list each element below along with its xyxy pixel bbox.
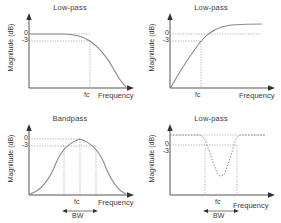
response-curve [30, 139, 126, 194]
fc-label: fc [215, 198, 220, 205]
y-axis-arrow [167, 124, 172, 131]
bw-arrow-left [203, 209, 208, 213]
ytick-minus3: -3 [14, 36, 28, 43]
bw-label: BW [213, 212, 224, 219]
ytick-minus3: -3 [155, 147, 169, 154]
fc-label: fc [74, 198, 79, 205]
y-axis-arrow [26, 13, 31, 20]
bw-arrow-left [62, 209, 67, 213]
y-axis-arrow [167, 13, 172, 20]
response-curve [170, 135, 265, 176]
fc-label: fc [195, 91, 200, 98]
ytick-0: 0 [157, 29, 169, 36]
x-axis-arrow [268, 192, 275, 197]
filter-response-figure: Low-pass Magnitude (dB) 0 -3 fc Frequenc… [0, 0, 281, 223]
panel-bottom-left: Bandpass Magnitude (dB) 0 -3 fc Frequenc… [0, 111, 140, 222]
bw-label: BW [72, 212, 83, 219]
ytick-0: 0 [16, 134, 28, 141]
panel-top-left: Low-pass Magnitude (dB) 0 -3 fc Frequenc… [0, 0, 140, 111]
fc-label: fc [84, 91, 89, 98]
x-axis-arrow [127, 192, 134, 197]
x-axis-label: Frequency [233, 201, 268, 210]
x-axis-label: Frequency [239, 91, 274, 100]
ytick-minus3: -3 [14, 141, 28, 148]
x-axis-arrow [127, 85, 134, 90]
x-axis-arrow [268, 85, 275, 90]
x-axis-label: Frequency [98, 198, 133, 207]
ytick-minus3: -3 [155, 36, 169, 43]
response-curve [29, 34, 126, 87]
bw-arrow-right [93, 209, 98, 213]
ytick-0: 0 [157, 140, 169, 147]
panel-bottom-right: Low-pass Magnitude (dB) 0 -3 fc Frequenc… [141, 111, 281, 222]
response-curve [171, 24, 262, 87]
panel-top-right: Low-pass Magnitude (dB) 0 -3 fc Frequenc… [141, 0, 281, 111]
y-axis-arrow [26, 124, 31, 131]
x-axis-label: Frequency [98, 91, 133, 100]
ytick-0: 0 [16, 29, 28, 36]
